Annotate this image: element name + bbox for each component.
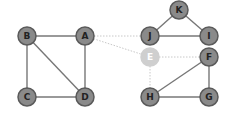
node-label: C [24,92,31,102]
node-label: J [147,31,151,41]
node-c: C [18,88,36,106]
node-label: F [206,52,212,62]
node-label: H [146,92,154,102]
node-h: H [141,88,159,106]
node-label: B [24,31,31,41]
node-label: A [82,31,89,41]
node-j: J [141,27,159,45]
node-label: K [176,5,184,15]
node-i: I [200,27,218,45]
node-b: B [18,27,36,45]
graph-edges [27,10,209,97]
edge-f-h [150,57,209,97]
graph-diagram: ABCDKJIEFHG [0,0,236,120]
node-k: K [170,1,188,19]
edge-b-d [27,36,85,97]
node-e: E [141,48,159,66]
node-label: D [81,92,88,102]
node-g: G [200,88,218,106]
node-a: A [76,27,94,45]
edge-a-e [85,36,150,57]
graph-nodes: ABCDKJIEFHG [18,1,218,106]
node-f: F [200,48,218,66]
node-d: D [76,88,94,106]
node-label: E [147,52,153,62]
node-label: G [205,92,212,102]
node-label: I [207,31,210,41]
